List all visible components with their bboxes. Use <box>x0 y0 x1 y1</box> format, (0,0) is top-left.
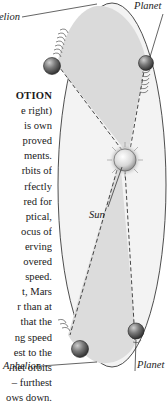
text-line: that the <box>0 314 52 329</box>
planet-bottom-left <box>72 341 89 358</box>
text-line: rfectly <box>0 179 52 194</box>
text-line: – furthest <box>0 375 52 390</box>
text-line: e right) <box>0 103 52 118</box>
kepler-explanation-text: OTION e right) is own proved ments. rbit… <box>0 88 52 405</box>
motion-trail-bottom-left <box>58 319 70 331</box>
text-line: ows down. <box>0 390 52 405</box>
text-line: overed <box>0 254 52 269</box>
text-line: is own <box>0 118 52 133</box>
text-line: red for <box>0 194 52 209</box>
text-line: ptical, <box>0 209 52 224</box>
text-line: ocus of <box>0 224 52 239</box>
planet-label-top: Planet <box>134 0 161 12</box>
planet-bottom-right <box>128 323 144 339</box>
text-line: ng speed <box>0 330 52 345</box>
text-line: speed. <box>0 269 52 284</box>
text-line: est to the <box>0 345 52 360</box>
planet-top-right <box>139 56 154 71</box>
text-line: t, Mars <box>0 284 52 299</box>
sun-label: Sun <box>89 209 105 221</box>
text-line: ments. <box>0 148 52 163</box>
text-line: net orbits <box>0 360 52 375</box>
text-line: r than at <box>0 299 52 314</box>
text-line: rbits of <box>0 163 52 178</box>
text-line: proved <box>0 133 52 148</box>
aphelion-label-top: Aphelion <box>0 11 20 23</box>
sun-icon <box>107 142 143 178</box>
planet-top-left <box>44 58 61 75</box>
planet-label-bottom: Planet <box>137 359 164 371</box>
text-heading: OTION <box>0 88 52 103</box>
text-line: erving <box>0 239 52 254</box>
